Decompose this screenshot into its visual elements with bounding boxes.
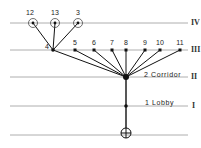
- edge-2-4: [53, 50, 126, 77]
- edge-2-6: [94, 50, 126, 77]
- node-8: [125, 49, 128, 52]
- node-5: [74, 49, 77, 52]
- label-13: 13: [51, 9, 59, 16]
- roman-1: I: [192, 101, 195, 110]
- label-9: 9: [143, 39, 147, 46]
- roman-4: IV: [191, 18, 200, 27]
- label-3: 3: [76, 9, 80, 16]
- label-10: 10: [156, 39, 164, 46]
- node-7: [111, 49, 114, 52]
- node-12: [32, 22, 35, 25]
- label-7: 7: [110, 39, 114, 46]
- label-corridor: 2 Corridor: [144, 71, 181, 78]
- label-lobby: 1 Lobby: [145, 99, 174, 107]
- label-12: 12: [26, 9, 34, 16]
- node-4: [51, 48, 55, 52]
- node-11: [179, 49, 182, 52]
- node-10: [159, 49, 162, 52]
- node-2-hub: [123, 74, 129, 80]
- node-3: [77, 22, 80, 25]
- edge-2-9: [126, 50, 145, 77]
- entrance-icon: [121, 128, 131, 138]
- node-1: [124, 104, 128, 108]
- node-13: [54, 22, 57, 25]
- label-5: 5: [73, 39, 77, 46]
- roman-2: II: [191, 72, 197, 81]
- label-8: 8: [124, 39, 128, 46]
- node-labels: 12 13 3 4 5 6 7 8 9 10 11 2 Corridor 1 L…: [26, 9, 184, 107]
- label-4: 4: [45, 43, 49, 50]
- node-9: [144, 49, 147, 52]
- roman-3: III: [191, 45, 200, 54]
- floor-numerals: IV III II I: [191, 18, 200, 110]
- label-6: 6: [92, 39, 96, 46]
- circulation-diagram: 12 13 3 4 5 6 7 8 9 10 11 2 Corridor 1 L…: [0, 0, 201, 148]
- edge-2-5: [75, 50, 126, 77]
- label-11: 11: [176, 39, 183, 46]
- node-6: [93, 49, 96, 52]
- edge-4-12: [33, 23, 53, 50]
